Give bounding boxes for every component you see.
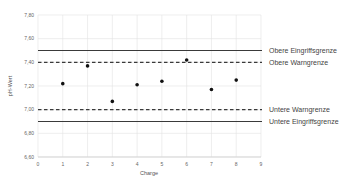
x-tick-label: 5 (160, 161, 163, 167)
x-tick-label: 2 (86, 161, 89, 167)
legend-label: Obere Warngrenze (269, 59, 328, 67)
y-tick-label: 7,00 (24, 106, 34, 112)
y-axis-title: pH-Wert (7, 75, 13, 96)
x-tick-label: 6 (185, 161, 188, 167)
data-point (210, 88, 214, 92)
x-tick-label: 7 (210, 161, 213, 167)
control-chart: 6,606,807,007,207,407,607,80 0123456789 … (0, 0, 354, 186)
y-tick-label: 6,80 (24, 130, 34, 136)
data-point (234, 78, 238, 82)
legend-label: Obere Eingriffsgrenze (269, 47, 337, 55)
x-tick-label: 3 (111, 161, 114, 167)
x-tick-label: 9 (260, 161, 263, 167)
data-point (111, 100, 115, 104)
data-point (61, 82, 65, 86)
y-tick-label: 6,60 (24, 154, 34, 160)
x-axis-ticks: 0123456789 (37, 161, 263, 167)
y-axis-ticks: 6,606,807,007,207,407,607,80 (24, 12, 34, 160)
y-tick-label: 7,20 (24, 83, 34, 89)
x-axis-title: Charge (140, 170, 158, 176)
grid-lines (38, 15, 261, 157)
legend-label: Untere Warngrenze (269, 106, 330, 114)
y-tick-label: 7,40 (24, 59, 34, 65)
data-point (160, 79, 164, 83)
x-tick-label: 4 (136, 161, 139, 167)
data-point (135, 83, 139, 87)
y-tick-label: 7,80 (24, 12, 34, 18)
x-tick-label: 8 (235, 161, 238, 167)
data-point (185, 58, 189, 62)
x-tick-label: 0 (37, 161, 40, 167)
x-tick-label: 1 (61, 161, 64, 167)
y-tick-label: 7,60 (24, 35, 34, 41)
data-point (86, 64, 90, 68)
legend: Obere EingriffsgrenzeObere WarngrenzeUnt… (269, 47, 339, 126)
legend-label: Untere Eingriffsgrenze (269, 118, 339, 126)
